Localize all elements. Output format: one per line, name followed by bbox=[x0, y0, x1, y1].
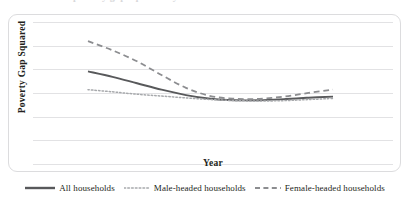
legend-label: Male-headed households bbox=[154, 183, 246, 193]
legend-entry[interactable]: Male-headed households bbox=[124, 183, 246, 193]
y-axis-title: Poverty Gap Squared bbox=[17, 7, 27, 127]
gridline bbox=[33, 93, 393, 94]
gridline bbox=[33, 46, 393, 47]
dashed-line-swatch-icon bbox=[255, 184, 281, 192]
gridline bbox=[33, 140, 393, 141]
x-axis-title: Year bbox=[33, 158, 393, 168]
dotted-line-swatch-icon bbox=[124, 184, 150, 192]
clipped-chart-title: Trends in poverty gap squared by sex of … bbox=[0, 0, 410, 7]
chart-legend: All householdsMale-headed householdsFema… bbox=[0, 180, 410, 196]
gridline bbox=[33, 117, 393, 118]
solid-line-swatch-icon bbox=[25, 184, 55, 192]
gridline-group bbox=[33, 14, 393, 172]
gridline bbox=[33, 69, 393, 70]
legend-label: All households bbox=[59, 183, 115, 193]
clipped-chart-title-text: Trends in poverty gap squared by sex of … bbox=[28, 0, 278, 2]
legend-entry[interactable]: Female-headed households bbox=[255, 183, 385, 193]
gridline bbox=[33, 22, 393, 23]
legend-entry[interactable]: All households bbox=[25, 183, 115, 193]
legend-label: Female-headed households bbox=[285, 183, 385, 193]
